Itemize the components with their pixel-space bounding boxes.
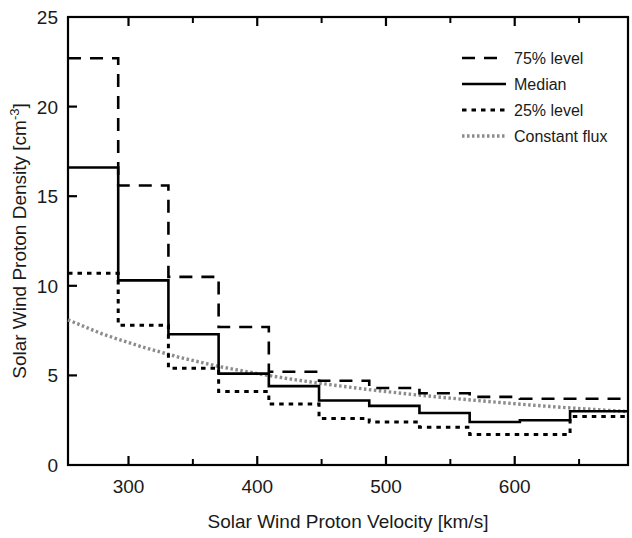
x-tick-label: 400 — [241, 476, 273, 497]
svg-text:Solar Wind Proton Density [cm-: Solar Wind Proton Density [cm-3] — [7, 103, 30, 379]
y-tick-label: 20 — [37, 97, 58, 118]
legend-item: 25% level — [462, 102, 583, 119]
y-tick-label: 25 — [37, 7, 58, 28]
y-tick-label: 5 — [47, 365, 58, 386]
x-tick-label: 600 — [499, 476, 531, 497]
legend-label: Median — [514, 76, 566, 93]
series-line-25-level — [68, 273, 628, 434]
y-tick-label: 0 — [47, 455, 58, 476]
legend-item: Constant flux — [462, 128, 607, 145]
x-tick-label: 300 — [113, 476, 145, 497]
legend-label: 75% level — [514, 50, 583, 67]
y-axis-title: Solar Wind Proton Density [cm-3] — [7, 103, 30, 379]
y-tick-label: 15 — [37, 186, 58, 207]
legend-label: 25% level — [514, 102, 583, 119]
legend-label: Constant flux — [514, 128, 607, 145]
x-axis-title: Solar Wind Proton Velocity [km/s] — [208, 511, 489, 532]
x-axis-tick-labels: 300400500600 — [113, 476, 531, 497]
chart-legend: 75% levelMedian25% levelConstant flux — [462, 50, 607, 145]
y-axis-title-superscript: -3 — [7, 109, 22, 121]
legend-item: Median — [462, 76, 566, 93]
y-axis-title-tail: ] — [9, 103, 30, 108]
chart-figure: 300400500600 0510152025 Solar Wind Proto… — [0, 0, 632, 538]
solar-wind-density-chart: 300400500600 0510152025 Solar Wind Proto… — [0, 0, 632, 538]
y-axis-ticks — [68, 107, 77, 376]
y-axis-title-base: Solar Wind Proton Density [cm — [9, 120, 30, 379]
x-tick-label: 500 — [370, 476, 402, 497]
y-tick-label: 10 — [37, 276, 58, 297]
legend-item: 75% level — [462, 50, 583, 67]
series-line-median — [68, 168, 628, 422]
y-axis-tick-labels: 0510152025 — [37, 7, 58, 476]
